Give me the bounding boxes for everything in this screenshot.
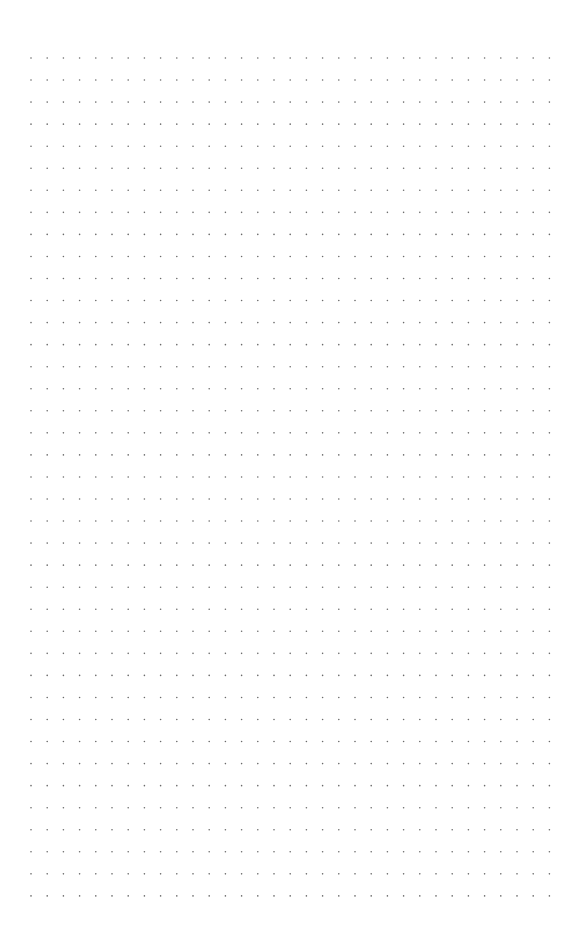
grid-dot	[144, 101, 146, 103]
grid-dot	[306, 322, 308, 324]
grid-dot	[549, 167, 551, 169]
grid-dot	[241, 653, 243, 655]
grid-dot	[160, 256, 162, 258]
grid-dot	[273, 807, 275, 809]
grid-dot	[241, 432, 243, 434]
grid-dot	[549, 388, 551, 390]
grid-dot	[500, 366, 502, 368]
grid-dot	[468, 476, 470, 478]
grid-dot	[354, 57, 356, 59]
grid-dot	[451, 895, 453, 897]
grid-dot	[273, 57, 275, 59]
grid-dot	[273, 278, 275, 280]
grid-dot	[46, 278, 48, 280]
grid-dot	[241, 763, 243, 765]
grid-dot	[338, 388, 340, 390]
grid-dot	[289, 895, 291, 897]
grid-dot	[192, 234, 194, 236]
grid-dot	[30, 410, 32, 412]
grid-dot	[435, 167, 437, 169]
grid-dot	[532, 256, 534, 258]
grid-dot	[127, 851, 129, 853]
grid-dot	[289, 653, 291, 655]
grid-dot	[516, 498, 518, 500]
grid-dot	[208, 101, 210, 103]
grid-dot	[322, 167, 324, 169]
grid-dot	[484, 675, 486, 677]
grid-dot	[549, 807, 551, 809]
grid-dot	[111, 631, 113, 633]
grid-dot	[273, 344, 275, 346]
grid-dot	[79, 123, 81, 125]
grid-dot	[387, 432, 389, 434]
grid-dot	[208, 344, 210, 346]
grid-dot	[241, 697, 243, 699]
grid-dot	[451, 234, 453, 236]
grid-dot	[289, 167, 291, 169]
grid-dot	[306, 410, 308, 412]
grid-dot	[176, 344, 178, 346]
grid-dot	[306, 675, 308, 677]
grid-dot	[257, 300, 259, 302]
grid-dot	[79, 167, 81, 169]
grid-dot	[484, 410, 486, 412]
grid-dot	[111, 454, 113, 456]
grid-dot	[338, 741, 340, 743]
grid-dot	[225, 454, 227, 456]
grid-dot	[354, 123, 356, 125]
grid-dot	[63, 256, 65, 258]
grid-dot	[127, 167, 129, 169]
grid-dot	[208, 454, 210, 456]
grid-dot	[484, 586, 486, 588]
grid-dot	[451, 101, 453, 103]
grid-dot	[484, 167, 486, 169]
grid-dot	[273, 432, 275, 434]
grid-dot	[192, 829, 194, 831]
grid-dot	[111, 785, 113, 787]
grid-dot	[306, 807, 308, 809]
grid-dot	[500, 807, 502, 809]
grid-dot	[225, 234, 227, 236]
grid-dot	[46, 344, 48, 346]
grid-dot	[500, 432, 502, 434]
grid-dot	[387, 256, 389, 258]
grid-dot	[516, 123, 518, 125]
grid-dot	[338, 256, 340, 258]
grid-dot	[468, 322, 470, 324]
grid-dot	[322, 719, 324, 721]
grid-dot	[354, 763, 356, 765]
grid-dot	[532, 520, 534, 522]
grid-dot	[516, 697, 518, 699]
grid-dot	[435, 388, 437, 390]
grid-dot	[306, 454, 308, 456]
grid-dot	[354, 145, 356, 147]
grid-dot	[354, 785, 356, 787]
grid-dot	[63, 653, 65, 655]
grid-dot	[387, 763, 389, 765]
grid-dot	[79, 741, 81, 743]
grid-dot	[549, 366, 551, 368]
grid-dot	[403, 388, 405, 390]
grid-dot	[225, 653, 227, 655]
grid-dot	[273, 322, 275, 324]
grid-dot	[273, 653, 275, 655]
grid-dot	[484, 498, 486, 500]
grid-dot	[322, 851, 324, 853]
grid-dot	[468, 79, 470, 81]
grid-dot	[468, 101, 470, 103]
grid-dot	[273, 697, 275, 699]
grid-dot	[273, 675, 275, 677]
grid-dot	[468, 145, 470, 147]
grid-dot	[127, 101, 129, 103]
grid-dot	[225, 763, 227, 765]
grid-dot	[208, 212, 210, 214]
grid-dot	[208, 895, 210, 897]
grid-dot	[370, 873, 372, 875]
grid-dot	[111, 476, 113, 478]
grid-dot	[403, 873, 405, 875]
grid-dot	[225, 322, 227, 324]
grid-dot	[225, 344, 227, 346]
grid-dot	[532, 300, 534, 302]
grid-dot	[127, 57, 129, 59]
grid-dot	[192, 123, 194, 125]
